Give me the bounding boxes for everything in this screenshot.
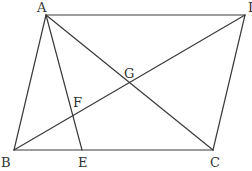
label-d: D	[248, 0, 252, 15]
label-b: B	[1, 155, 11, 170]
segment-ab	[14, 15, 46, 150]
label-a: A	[36, 0, 47, 15]
segment-bd	[14, 15, 245, 150]
segment-cd	[213, 15, 245, 150]
parallelogram-diagram: A D B E C F G	[0, 0, 252, 171]
label-f: F	[73, 95, 82, 110]
segment-ae	[46, 15, 82, 150]
label-g: G	[124, 66, 134, 81]
label-e: E	[78, 155, 88, 170]
label-c: C	[210, 155, 220, 170]
